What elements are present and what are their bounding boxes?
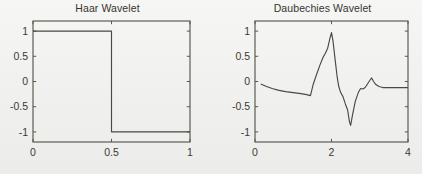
xtick-label-haar: 1	[187, 146, 193, 158]
ytick-label-haar: 0	[22, 75, 28, 87]
xtick-label-haar: 0.5	[104, 146, 119, 158]
plot-panel-haar: Haar Wavelet 00.51-1-0.500.51	[0, 0, 211, 174]
ytick-label-daubechies: 0	[244, 75, 250, 87]
axis-frame-daubechies	[255, 21, 408, 142]
xtick-label-daubechies: 2	[329, 146, 335, 158]
ytick-label-daubechies: -0.5	[232, 100, 250, 112]
figure-root: Haar Wavelet 00.51-1-0.500.51 Daubechies…	[0, 0, 422, 174]
ytick-label-daubechies: 1	[244, 25, 250, 37]
ytick-label-daubechies: -1	[241, 126, 250, 138]
ytick-label-haar: 1	[22, 25, 28, 37]
xtick-label-daubechies: 0	[252, 146, 258, 158]
ytick-label-haar: -1	[19, 126, 28, 138]
ytick-label-haar: -0.5	[10, 100, 28, 112]
data-series-haar	[33, 31, 190, 132]
ytick-label-haar: 0.5	[13, 50, 28, 62]
plot-panel-daubechies: Daubechies Wavelet 024-1-0.500.51	[211, 0, 422, 174]
plot-canvas-daubechies: 024-1-0.500.51	[211, 0, 422, 174]
ytick-label-daubechies: 0.5	[235, 50, 250, 62]
xtick-label-daubechies: 4	[405, 146, 411, 158]
xtick-label-haar: 0	[30, 146, 36, 158]
data-series-daubechies	[261, 33, 408, 126]
plot-canvas-haar: 00.51-1-0.500.51	[0, 0, 211, 174]
